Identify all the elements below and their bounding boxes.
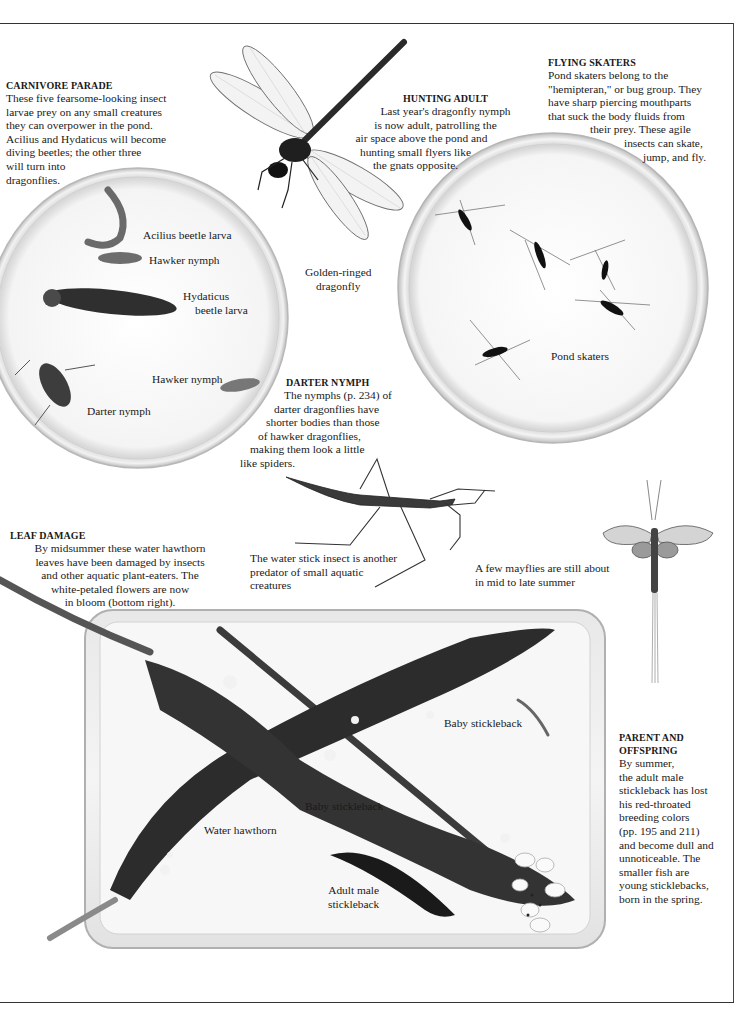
label-adult-male-stickleback: Adult male stickleback [328, 884, 379, 911]
label-baby-stickleback-1: Baby stickleback [444, 717, 522, 731]
caption-parent-offspring: PARENT AND OFFSPRING By summer, the adul… [619, 731, 733, 907]
caption-heading: FLYING SKATERS [548, 56, 718, 69]
caption-flying-skaters: FLYING SKATERS Pond skaters belong to th… [548, 56, 718, 164]
caption-heading: HUNTING ADULT [318, 92, 513, 105]
caption-leaf-damage: LEAF DAMAGE By midsummer these water haw… [10, 529, 230, 610]
caption-water-stick-insect: The water stick insect is another predat… [250, 552, 425, 593]
petri-dish-pond-skaters [395, 130, 715, 450]
label-golden-ringed-dragonfly: Golden-ringed dragonfly [305, 266, 371, 293]
page-border-bottom [0, 1002, 734, 1003]
page-border-right [733, 23, 734, 1003]
label-pond-skaters: Pond skaters [551, 350, 609, 364]
caption-mayflies: A few mayflies are still about in mid to… [475, 562, 635, 589]
label-hydaticus-beetle-larva: Hydaticus beetle larva [183, 290, 248, 317]
label-darter-nymph: Darter nymph [87, 405, 151, 419]
label-baby-stickleback-2: Baby stickleback [305, 800, 383, 814]
label-hawker-nymph-1: Hawker nymph [149, 254, 220, 268]
caption-heading: CARNIVORE PARADE [6, 79, 236, 92]
caption-darter-nymph: DARTER NYMPH The nymphs (p. 234) of dart… [250, 376, 420, 471]
caption-hunting-adult: HUNTING ADULT Last year's dragonfly nymp… [318, 92, 513, 173]
label-water-hawthorn: Water hawthorn [204, 824, 277, 838]
caption-heading: LEAF DAMAGE [10, 529, 230, 542]
page-border-top [0, 23, 733, 24]
book-page: CARNIVORE PARADE These five fearsome-loo… [0, 0, 753, 1013]
tray-photo [0, 570, 615, 960]
caption-carnivore-parade: CARNIVORE PARADE These five fearsome-loo… [6, 79, 236, 187]
caption-heading: PARENT AND [619, 731, 733, 744]
label-hawker-nymph-2: Hawker nymph [152, 373, 223, 387]
caption-heading: DARTER NYMPH [250, 376, 420, 389]
label-acilius-beetle-larva: Acilius beetle larva [143, 229, 232, 243]
caption-heading: OFFSPRING [619, 744, 733, 757]
